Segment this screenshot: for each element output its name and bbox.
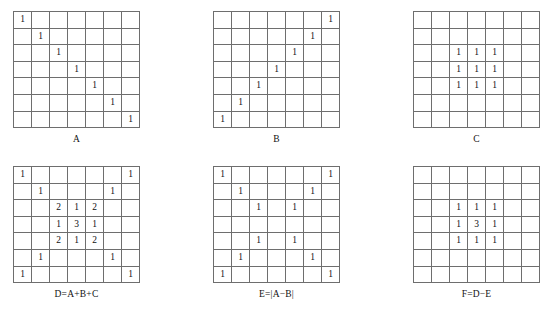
matrix-caption-e: E=|A−B| <box>259 289 294 299</box>
matrix-cell <box>322 200 340 217</box>
matrix-cell <box>68 45 86 62</box>
matrix-cell <box>522 267 540 284</box>
matrix-cell <box>522 95 540 112</box>
matrix-cell: 1 <box>486 62 504 79</box>
matrix-cell: 1 <box>486 45 504 62</box>
matrix-cell: 1 <box>68 200 86 217</box>
matrix-row-bottom: 11112121312121111D=A+B+C111111111111E=|A… <box>0 166 548 299</box>
matrix-cell <box>104 112 122 129</box>
matrix-cell: 1 <box>450 200 468 217</box>
matrix-cell: 1 <box>250 200 268 217</box>
matrix-cell <box>250 184 268 201</box>
matrix-cell <box>504 45 522 62</box>
matrix-cell <box>450 167 468 184</box>
matrix-cell <box>250 250 268 267</box>
matrix-cell: 1 <box>304 184 322 201</box>
matrix-cell: 1 <box>322 12 340 29</box>
matrix-cell <box>414 200 432 217</box>
matrix-cell <box>50 112 68 129</box>
matrix-cell <box>486 112 504 129</box>
matrix-cell <box>414 250 432 267</box>
matrix-cell: 1 <box>286 45 304 62</box>
matrix-cell <box>504 12 522 29</box>
matrix-cell <box>104 29 122 46</box>
matrix-cell <box>104 200 122 217</box>
matrix-cell: 1 <box>468 45 486 62</box>
matrix-cell <box>250 217 268 234</box>
matrix-cell <box>68 112 86 129</box>
matrix-cell <box>214 12 232 29</box>
matrix-cell <box>104 12 122 29</box>
matrix-cell <box>14 112 32 129</box>
matrix-cell <box>504 200 522 217</box>
matrix-cell <box>414 184 432 201</box>
matrix-cell: 1 <box>486 200 504 217</box>
matrix-cell <box>486 29 504 46</box>
matrix-block-d: 11112121312121111D=A+B+C <box>13 166 140 299</box>
matrix-cell <box>504 95 522 112</box>
matrix-cell <box>322 233 340 250</box>
matrix-cell: 1 <box>232 184 250 201</box>
matrix-cell <box>432 12 450 29</box>
matrix-cell <box>250 267 268 284</box>
matrix-cell <box>32 200 50 217</box>
matrix-cell <box>504 29 522 46</box>
matrix-cell <box>450 29 468 46</box>
matrix-grid-f: 111131111 <box>413 166 540 283</box>
matrix-cell: 1 <box>486 217 504 234</box>
matrix-cell: 1 <box>86 78 104 95</box>
matrix-cell: 1 <box>14 12 32 29</box>
matrix-cell <box>86 45 104 62</box>
matrix-cell: 1 <box>232 95 250 112</box>
matrix-cell: 2 <box>86 200 104 217</box>
matrix-cell <box>232 267 250 284</box>
matrix-cell <box>214 200 232 217</box>
matrix-cell <box>432 95 450 112</box>
matrix-cell <box>486 267 504 284</box>
matrix-block-c: 111111111C <box>413 11 540 144</box>
matrix-cell <box>32 45 50 62</box>
matrix-cell <box>522 45 540 62</box>
matrix-cell <box>14 233 32 250</box>
matrix-cell: 3 <box>468 217 486 234</box>
matrix-cell <box>32 112 50 129</box>
matrix-cell <box>122 200 140 217</box>
matrix-cell <box>214 250 232 267</box>
matrix-cell <box>68 267 86 284</box>
matrix-cell <box>214 184 232 201</box>
matrix-cell <box>32 12 50 29</box>
matrix-cell <box>322 250 340 267</box>
matrix-cell <box>232 233 250 250</box>
matrix-cell: 1 <box>304 250 322 267</box>
matrix-cell: 1 <box>304 29 322 46</box>
matrix-cell <box>14 95 32 112</box>
matrix-cell <box>432 62 450 79</box>
matrix-grid-a: 1111111 <box>13 11 140 128</box>
matrix-cell <box>50 250 68 267</box>
matrix-cell: 1 <box>450 78 468 95</box>
matrix-cell <box>268 217 286 234</box>
matrix-cell: 1 <box>468 233 486 250</box>
matrix-cell <box>268 250 286 267</box>
matrix-cell <box>122 45 140 62</box>
matrix-cell: 1 <box>122 167 140 184</box>
matrix-cell <box>68 250 86 267</box>
matrix-cell <box>504 250 522 267</box>
matrix-cell <box>522 112 540 129</box>
matrix-figure-sheet: 1111111A1111111B111111111C 1111212131212… <box>0 0 548 315</box>
matrix-cell <box>214 233 232 250</box>
matrix-cell: 1 <box>14 267 32 284</box>
matrix-cell <box>450 184 468 201</box>
matrix-cell <box>450 267 468 284</box>
matrix-cell <box>286 12 304 29</box>
matrix-cell <box>50 62 68 79</box>
matrix-cell <box>304 267 322 284</box>
matrix-cell <box>32 217 50 234</box>
matrix-cell: 1 <box>68 62 86 79</box>
matrix-cell <box>304 45 322 62</box>
matrix-caption-d: D=A+B+C <box>55 289 99 299</box>
matrix-cell <box>468 95 486 112</box>
matrix-cell <box>432 250 450 267</box>
matrix-cell <box>122 62 140 79</box>
matrix-cell: 1 <box>104 184 122 201</box>
